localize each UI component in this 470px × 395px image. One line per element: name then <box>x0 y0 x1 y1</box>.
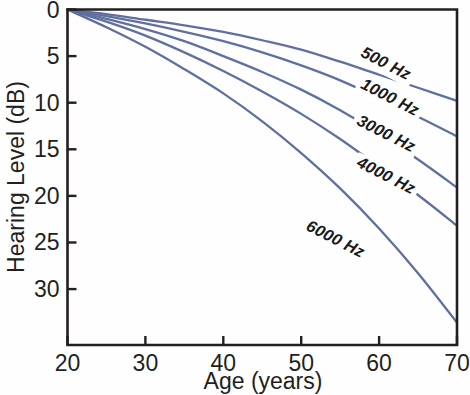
hearing-level-figure: 051015202530203040506070 500 Hz1000 Hz30… <box>0 0 470 395</box>
hearing-level-chart: 051015202530203040506070 500 Hz1000 Hz30… <box>0 0 470 395</box>
y-tick-label-5: 5 <box>47 43 60 69</box>
y-tick-label-0: 0 <box>47 0 60 23</box>
x-tick-label-30: 30 <box>133 350 159 376</box>
series-line-6000-hz <box>68 10 458 323</box>
y-tick-label-15: 15 <box>34 136 60 162</box>
y-tick-label-30: 30 <box>34 276 60 302</box>
x-tick-label-70: 70 <box>444 350 470 376</box>
series-layer <box>68 10 458 323</box>
y-tick-label-25: 25 <box>34 229 60 255</box>
series-label-group-6000-hz: 6000 Hz <box>299 214 372 265</box>
y-tick-label-10: 10 <box>34 90 60 116</box>
y-tick-label-20: 20 <box>34 183 60 209</box>
series-label-layer: 500 Hz1000 Hz3000 Hz4000 Hz6000 Hz <box>299 41 426 265</box>
y-axis-title: Hearing Level (dB) <box>3 81 29 273</box>
x-tick-label-60: 60 <box>366 350 392 376</box>
x-axis-title: Age (years) <box>204 368 323 394</box>
x-tick-label-20: 20 <box>55 350 81 376</box>
